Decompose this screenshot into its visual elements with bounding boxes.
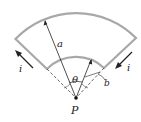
radius-b-line [76,60,91,98]
label-current-left: i [19,63,22,74]
circuit-sector-diagram: a b θ P i i [0,0,141,122]
point-p [74,96,78,100]
label-a: a [57,38,63,49]
dashed-right-edge [76,68,104,98]
label-theta: θ [72,74,78,85]
label-p: P [70,104,79,117]
radius-a-line [45,21,76,98]
label-b: b [104,78,110,88]
label-current-right: i [127,62,130,73]
wire-loop [16,13,137,69]
b-leader-line [85,72,100,77]
